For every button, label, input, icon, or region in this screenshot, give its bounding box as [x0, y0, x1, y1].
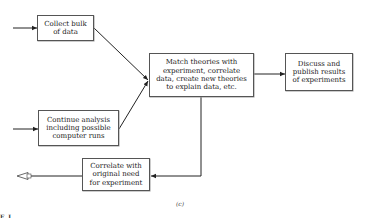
partial-figure-label: F I . [0, 213, 18, 218]
figure-caption: (c) [176, 200, 184, 207]
continue-analysis-box: Continue analysis including possible com… [38, 110, 119, 146]
match-theories-label: Match theories with experiment, correlat… [156, 58, 247, 91]
continue-analysis-label: Continue analysis including possible com… [46, 116, 110, 141]
discuss-publish-box: Discuss and publish results of experimen… [285, 53, 353, 91]
collect-data-label: Collect bulk of data [44, 20, 87, 37]
correlate-need-box: Correlate with original need for experim… [82, 158, 150, 191]
hollow-arrow-icon [17, 173, 28, 180]
correlate-need-label: Correlate with original need for experim… [90, 162, 143, 187]
collect-data-box: Collect bulk of data [37, 15, 94, 41]
discuss-publish-label: Discuss and publish results of experimen… [292, 60, 345, 85]
match-theories-box: Match theories with experiment, correlat… [149, 53, 254, 97]
